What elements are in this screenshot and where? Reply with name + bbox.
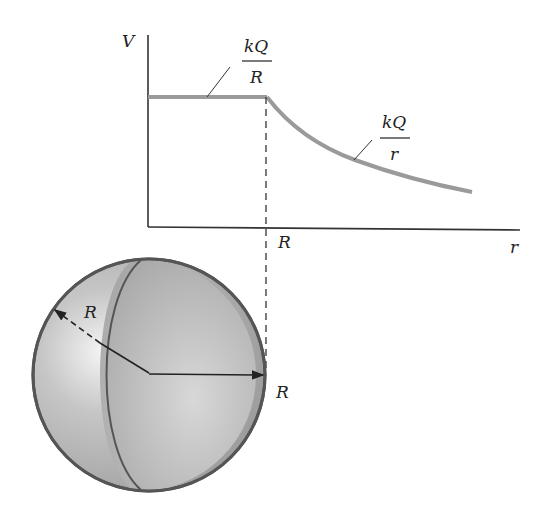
label-kQ-over-r: kQ r bbox=[354, 112, 410, 164]
leader-line bbox=[207, 67, 230, 97]
radius-arrow-right bbox=[149, 374, 263, 375]
y-axis-label: V bbox=[122, 31, 136, 51]
sphere-radius-label-right: R bbox=[275, 382, 289, 402]
x-axis bbox=[148, 227, 520, 230]
x-axis-label: r bbox=[510, 237, 519, 257]
numerator: kQ bbox=[382, 112, 406, 132]
sphere-radius-label-top: R bbox=[83, 302, 97, 322]
charged-sphere bbox=[33, 259, 265, 491]
denominator: R bbox=[249, 67, 263, 87]
denominator: r bbox=[390, 144, 399, 164]
leader-line bbox=[354, 140, 372, 160]
axes bbox=[148, 35, 520, 230]
outside-potential-curve bbox=[267, 97, 472, 192]
figure: V r R kQ R kQ r R R bbox=[0, 0, 556, 516]
label-kQ-over-R: kQ R bbox=[207, 36, 272, 97]
numerator: kQ bbox=[244, 36, 268, 56]
x-tick-R: R bbox=[277, 232, 291, 252]
potential-diagram: V r R kQ R kQ r R R bbox=[0, 0, 556, 516]
